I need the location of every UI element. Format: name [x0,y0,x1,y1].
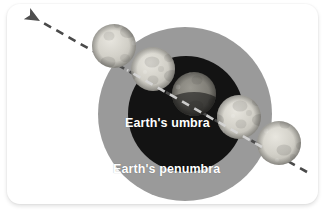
moon-position-1 [257,121,301,165]
diagram-card: Earth's umbra Earth's penumbra [7,4,318,204]
moon-position-5 [92,24,136,68]
screenshot-root: Earth's umbra Earth's penumbra [0,0,332,217]
direction-arrow-icon [24,8,43,27]
penumbra-label: Earth's penumbra [113,162,220,176]
umbra-label: Earth's umbra [125,116,210,130]
